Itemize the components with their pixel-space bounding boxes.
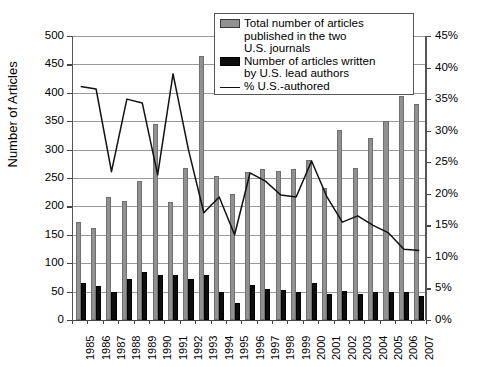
y-axis-left-tick-label: 300	[28, 143, 64, 155]
y-axis-left-tick-label: 400	[28, 86, 64, 98]
legend-label-total-line3: U.S. journals	[244, 42, 409, 55]
x-axis-label-1999: 1999	[300, 336, 312, 360]
x-axis-label-1988: 1988	[130, 336, 142, 360]
x-axis-label-2003: 2003	[361, 336, 373, 360]
x-axis-label-2005: 2005	[392, 336, 404, 360]
x-axis-label-1986: 1986	[100, 336, 112, 360]
x-axis-label-2001: 2001	[330, 336, 342, 360]
y-axis-left-tick-label: 200	[28, 199, 64, 211]
y-axis-right-tick-label: 5%	[435, 281, 471, 293]
y-axis-left-tick-label: 250	[28, 171, 64, 183]
y-axis-right-tick-label: 25%	[435, 155, 471, 167]
x-axis-label-1992: 1992	[192, 336, 204, 360]
x-axis-tickmark	[426, 320, 427, 324]
x-axis-label-2007: 2007	[423, 336, 435, 360]
y-axis-right-tick-label: 15%	[435, 218, 471, 230]
chart-legend: Total number of articles published in th…	[214, 13, 414, 95]
y-axis-left-tick-label: 450	[28, 57, 64, 69]
x-axis-label-2002: 2002	[346, 336, 358, 360]
percent-line-path	[81, 74, 420, 251]
legend-item-pct: % U.S.-authored	[219, 80, 409, 93]
y-axis-right-tick-label: 20%	[435, 187, 471, 199]
x-axis-label-1985: 1985	[84, 336, 96, 360]
legend-label-total-line1: Total number of articles	[244, 17, 409, 30]
legend-item-total: Total number of articles	[219, 17, 409, 30]
y-axis-right-tick-label: 10%	[435, 250, 471, 262]
y-axis-left-tick-label: 100	[28, 256, 64, 268]
legend-swatch-line-icon	[220, 87, 240, 88]
x-axis-label-1991: 1991	[177, 336, 189, 360]
y-axis-left-tick-label: 0	[28, 313, 64, 325]
y-axis-left-tick-label: 150	[28, 228, 64, 240]
x-axis-label-1996: 1996	[254, 336, 266, 360]
y-axis-right-tick-label: 0%	[435, 313, 471, 325]
x-axis-label-1995: 1995	[238, 336, 250, 360]
x-axis-label-1987: 1987	[115, 336, 127, 360]
y-axis-right-tick-label: 35%	[435, 92, 471, 104]
x-axis-label-1993: 1993	[207, 336, 219, 360]
x-axis-label-1989: 1989	[146, 336, 158, 360]
chart-container: Number of Articles 050100150200250300350…	[0, 0, 491, 367]
legend-swatch-total-icon	[220, 19, 240, 28]
y-axis-left-tick-label: 50	[28, 285, 64, 297]
x-axis-label-1997: 1997	[269, 336, 281, 360]
x-axis-label-1990: 1990	[161, 336, 173, 360]
legend-label-pct: % U.S.-authored	[244, 80, 409, 93]
y-axis-right-tick-label: 45%	[435, 29, 471, 41]
x-axis-label-1994: 1994	[223, 336, 235, 360]
y-axis-right-tick-label: 30%	[435, 124, 471, 136]
x-axis-label-2004: 2004	[377, 336, 389, 360]
y-axis-left-tick-label: 350	[28, 114, 64, 126]
x-axis-labels: 1985198619871988198919901991199219931994…	[72, 322, 426, 367]
x-axis-label-2000: 2000	[315, 336, 327, 360]
y-axis-title: Number of Articles	[5, 148, 20, 168]
y-axis-right-tick-label: 40%	[435, 61, 471, 73]
x-axis-label-2006: 2006	[407, 336, 419, 360]
y-axis-left-tick-label: 500	[28, 29, 64, 41]
legend-swatch-us-icon	[220, 57, 240, 66]
x-axis-label-1998: 1998	[284, 336, 296, 360]
